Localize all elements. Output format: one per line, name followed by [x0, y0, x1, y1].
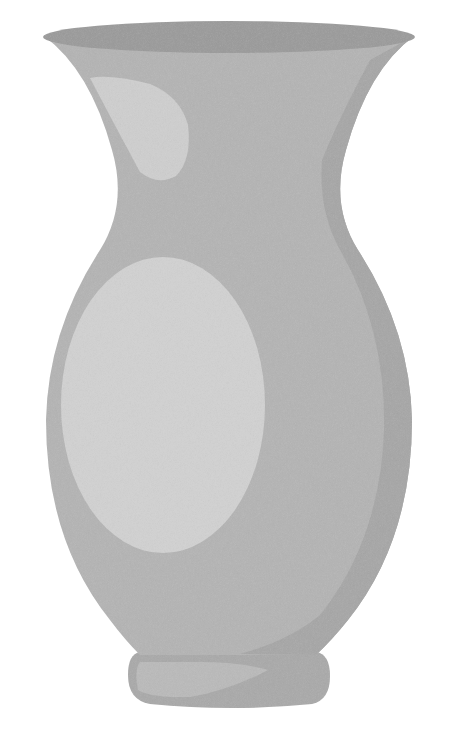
body-highlight	[61, 257, 265, 553]
vase-illustration	[0, 0, 464, 734]
vase-rim	[43, 21, 415, 53]
vase-svg	[0, 0, 464, 734]
